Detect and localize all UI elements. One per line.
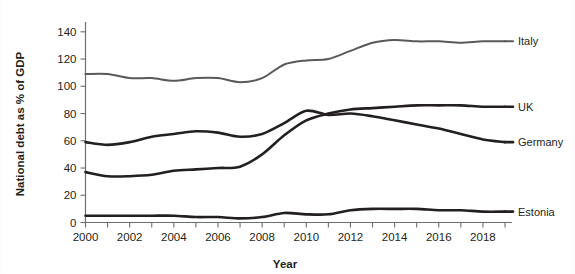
y-axis-title: National debt as % of GDP	[14, 51, 26, 196]
x-tick-label: 2004	[161, 231, 187, 243]
x-tick-label: 2016	[426, 231, 452, 243]
series-label-italy: Italy	[518, 35, 539, 47]
x-tick-label: 2000	[73, 231, 99, 243]
chart-container: 020406080100120140 200020022004200620082…	[0, 0, 575, 274]
x-tick-label: 2006	[205, 231, 231, 243]
series-label-uk: UK	[518, 101, 534, 113]
y-tick-label: 40	[64, 162, 77, 174]
x-tick-label: 2002	[117, 231, 143, 243]
x-tick-label: 2010	[293, 231, 319, 243]
y-tick-label: 0	[70, 217, 76, 229]
series-label-germany: Germany	[518, 136, 564, 148]
x-tick-label: 2018	[470, 231, 496, 243]
x-axis-title: Year	[273, 258, 298, 270]
y-tick-label: 120	[57, 53, 76, 65]
x-tick-label: 2012	[338, 231, 364, 243]
y-tick-label: 20	[64, 189, 77, 201]
y-tick-label: 100	[57, 80, 76, 92]
y-tick-label: 60	[64, 135, 77, 147]
series-label-estonia: Estonia	[518, 206, 556, 218]
y-tick-label: 80	[64, 108, 77, 120]
x-tick-label: 2008	[249, 231, 275, 243]
x-tick-label: 2014	[382, 231, 408, 243]
y-tick-label: 140	[57, 26, 76, 38]
line-chart: 020406080100120140 200020022004200620082…	[0, 0, 575, 274]
